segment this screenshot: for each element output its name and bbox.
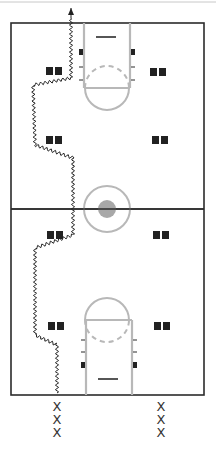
player-square (55, 67, 62, 75)
player-x-mark: X (53, 425, 62, 440)
player-square (57, 322, 64, 330)
free-throw-circle-dashed (85, 66, 129, 88)
player-marker (48, 322, 64, 330)
player-square (150, 68, 157, 76)
block-right (133, 362, 137, 368)
player-marker (150, 68, 166, 76)
player-square (47, 231, 54, 239)
free-throw-circle-dashed (85, 320, 129, 342)
block-left (81, 362, 85, 368)
block-left (79, 49, 83, 55)
waiting-lines: XXXXXX (53, 399, 166, 440)
players (46, 67, 170, 330)
player-marker (154, 322, 170, 330)
free-throw-circle-solid (85, 88, 129, 110)
player-square (48, 322, 55, 330)
player-square (46, 67, 53, 75)
dribble-route (32, 8, 75, 393)
player-square (55, 136, 62, 144)
block-right (131, 49, 135, 55)
player-x-mark: X (157, 425, 166, 440)
player-square (154, 322, 161, 330)
player-square (152, 136, 159, 144)
player-marker (152, 136, 168, 144)
bottom-key (81, 298, 137, 395)
player-square (153, 231, 160, 239)
center-circle (11, 186, 204, 232)
left-line: XXX (53, 399, 62, 440)
player-square (163, 322, 170, 330)
free-throw-circle-solid (85, 298, 129, 320)
player-square (161, 136, 168, 144)
basketball-court-diagram: XXXXXX (0, 0, 216, 449)
top-key (79, 23, 135, 110)
player-square (46, 136, 53, 144)
player-marker (153, 231, 169, 239)
player-marker (46, 136, 62, 144)
player-square (162, 231, 169, 239)
arrow-up-icon (68, 8, 74, 15)
player-square (56, 231, 63, 239)
player-square (159, 68, 166, 76)
dribble-path (32, 8, 75, 393)
player-marker (46, 67, 62, 75)
right-line: XXX (157, 399, 166, 440)
player-marker (47, 231, 63, 239)
